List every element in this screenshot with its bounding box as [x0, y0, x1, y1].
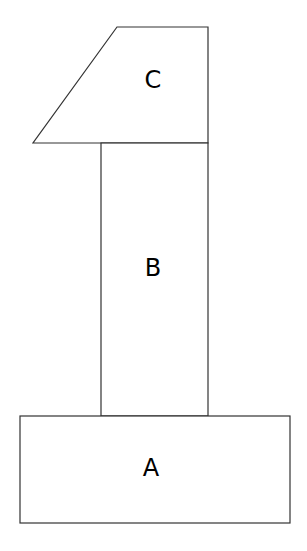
block-c-label: C [145, 66, 162, 94]
block-a: A [20, 416, 290, 523]
block-c: C [33, 27, 208, 143]
block-b-label: B [145, 254, 161, 282]
block-c-shape [33, 27, 208, 143]
block-a-label: A [143, 454, 160, 482]
block-b: B [101, 143, 208, 416]
block-diagram: C B A [0, 0, 307, 551]
